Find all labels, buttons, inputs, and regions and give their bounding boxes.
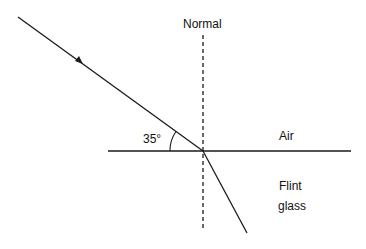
air-label: Air — [279, 129, 294, 143]
refracted-ray — [203, 151, 247, 233]
arrowhead-icon — [75, 56, 83, 64]
refraction-diagram — [0, 0, 366, 249]
normal-label: Normal — [183, 17, 222, 31]
flint-glass-label-line2: glass — [278, 199, 306, 213]
angle-label: 35° — [143, 132, 161, 146]
flint-glass-label-line1: Flint — [279, 179, 302, 193]
angle-arc — [170, 132, 176, 152]
incident-ray — [18, 17, 203, 151]
